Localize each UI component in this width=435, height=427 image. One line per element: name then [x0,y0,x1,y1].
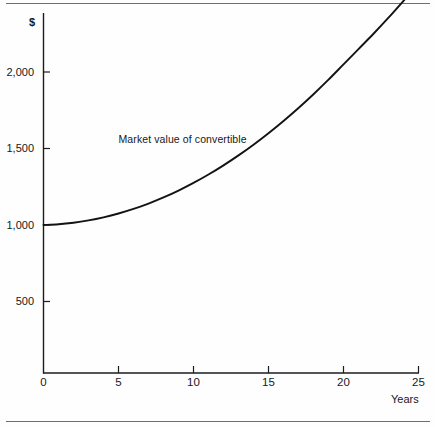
y-tick-label: 2,000 [0,67,34,78]
x-tick-label: 5 [104,377,134,389]
x-axis-name-label: Years [391,394,419,405]
chart-figure: $ Years 5001,0001,5002,000 0510152025 Ma… [0,0,435,427]
x-tick-label: 10 [179,377,209,389]
x-tick-label: 25 [404,377,434,389]
y-tick-label: 500 [0,296,34,307]
x-tick-label: 15 [254,377,284,389]
x-tick-label: 0 [29,377,59,389]
x-tick-label: 20 [329,377,359,389]
y-axis-ticks [44,72,51,302]
y-tick-label: 1,000 [0,220,34,231]
series-annotation-label: Market value of convertible [119,134,247,145]
y-tick-label: 1,500 [0,143,34,154]
x-axis-ticks [119,366,419,373]
series-line-market-value-of-convertible [44,0,416,225]
y-axis-unit-label: $ [29,17,35,28]
plot-area [0,0,435,427]
